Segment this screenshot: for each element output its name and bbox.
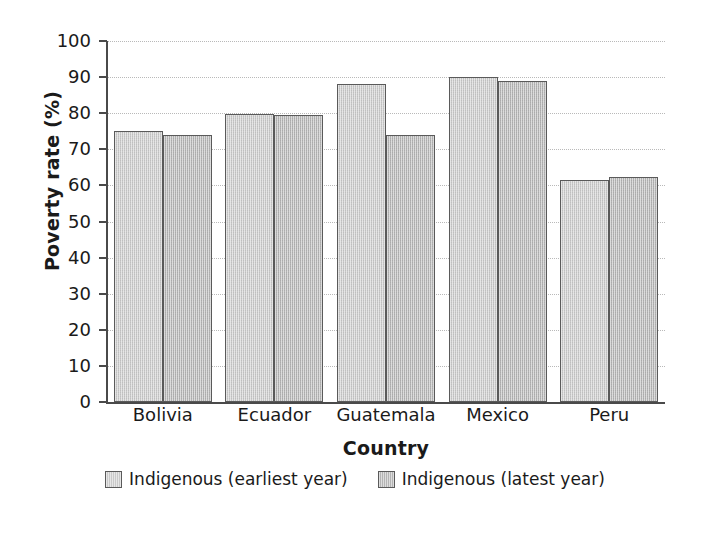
y-axis-tick-label: 30 [7, 285, 91, 303]
y-axis-tick [99, 401, 107, 403]
legend-label: Indigenous (earliest year) [129, 471, 348, 488]
x-axis-category-label: Guatemala [330, 406, 442, 424]
y-axis-tick-label: 10 [7, 357, 91, 375]
y-axis-tick-label: 50 [7, 213, 91, 231]
bar [225, 114, 274, 402]
y-axis-tick-label: 20 [7, 321, 91, 339]
legend: Indigenous (earliest year)Indigenous (la… [0, 471, 710, 488]
y-axis-tick [99, 148, 107, 150]
y-axis-tick [99, 184, 107, 186]
y-axis-tick [99, 76, 107, 78]
y-axis-tick [99, 293, 107, 295]
bar [449, 77, 498, 402]
x-axis-category-label: Ecuador [219, 406, 331, 424]
bar [386, 135, 435, 402]
gridline [107, 41, 665, 42]
y-axis-tick-label: 80 [7, 104, 91, 122]
x-axis-category-label: Bolivia [107, 406, 219, 424]
x-axis-title: Country [107, 437, 665, 459]
bar [274, 115, 323, 402]
legend-swatch [378, 471, 395, 488]
gridline [107, 113, 665, 114]
y-axis-tick [99, 329, 107, 331]
y-axis-tick [99, 40, 107, 42]
y-axis-tick-label: 60 [7, 176, 91, 194]
y-axis-tick-label: 90 [7, 68, 91, 86]
y-axis-tick-label: 40 [7, 249, 91, 267]
gridline [107, 77, 665, 78]
bar [560, 180, 609, 402]
legend-swatch [105, 471, 122, 488]
x-axis-category-label: Mexico [442, 406, 554, 424]
legend-item: Indigenous (earliest year) [105, 471, 348, 488]
legend-label: Indigenous (latest year) [402, 471, 605, 488]
y-axis-tick-label: 0 [7, 393, 91, 411]
bar [498, 81, 547, 402]
y-axis-tick-label: 100 [7, 32, 91, 50]
y-axis-tick-label: 70 [7, 140, 91, 158]
y-axis-tick [99, 221, 107, 223]
bar [337, 84, 386, 402]
legend-item: Indigenous (latest year) [378, 471, 605, 488]
bar [114, 131, 163, 402]
bar-chart: Poverty rate (%) 0102030405060708090100 … [0, 0, 710, 533]
plot-area [107, 41, 665, 402]
x-axis-category-label: Peru [553, 406, 665, 424]
y-axis-tick [99, 365, 107, 367]
y-axis-tick [99, 112, 107, 114]
bar [609, 177, 658, 402]
y-axis-tick [99, 257, 107, 259]
bar [163, 135, 212, 402]
